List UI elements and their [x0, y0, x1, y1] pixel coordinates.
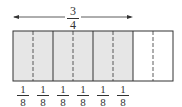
numerator: 1 [116, 84, 130, 94]
eighth-label: 1 8 [96, 84, 110, 107]
denominator: 8 [116, 97, 130, 107]
numerator: 3 [66, 6, 80, 17]
denominator: 8 [36, 97, 50, 107]
denominator: 8 [96, 97, 110, 107]
denominator: 4 [66, 20, 80, 31]
numerator: 1 [96, 84, 110, 94]
numerator: 1 [56, 84, 70, 94]
denominator: 8 [76, 97, 90, 107]
eighth-label: 1 8 [36, 84, 50, 107]
arrow-left-head [13, 15, 19, 19]
numerator: 1 [36, 84, 50, 94]
denominator: 8 [56, 97, 70, 107]
numerator: 1 [76, 84, 90, 94]
numerator: 1 [16, 84, 30, 94]
eighth-label: 1 8 [116, 84, 130, 107]
eighth-label: 1 8 [56, 84, 70, 107]
eighth-label: 1 8 [16, 84, 30, 107]
eighth-label: 1 8 [76, 84, 90, 107]
three-quarters-label: 3 4 [66, 6, 80, 31]
denominator: 8 [16, 97, 30, 107]
arrow-right-head [127, 15, 133, 19]
